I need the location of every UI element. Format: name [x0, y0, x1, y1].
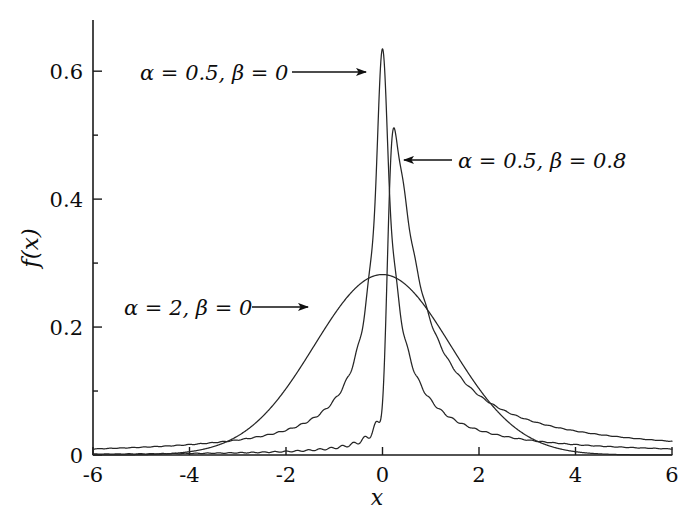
- annotation-2: α = 0.5, β = 0.8: [404, 149, 626, 173]
- x-tick-label: -2: [276, 463, 296, 487]
- x-tick-label: 6: [665, 463, 678, 487]
- y-tick-label: 0.2: [50, 316, 83, 340]
- x-tick-label: -6: [83, 463, 103, 487]
- y-axis-tick-labels: 00.20.40.6: [50, 60, 83, 468]
- y-axis-title: f(x): [17, 228, 43, 269]
- annotation-1: α = 0.5, β = 0: [140, 61, 366, 85]
- x-tick-label: 0: [376, 463, 389, 487]
- stable-density-figure: -6-4-20246 00.20.40.6 x f(x) α = 0.5, β …: [0, 0, 690, 526]
- data-curves: [93, 49, 672, 455]
- y-tick-label: 0.6: [50, 60, 83, 84]
- x-tick-label: -4: [179, 463, 199, 487]
- axes-group: [93, 20, 672, 455]
- x-axis-title: x: [371, 485, 384, 510]
- annotation-3: α = 2, β = 0: [124, 296, 308, 320]
- x-tick-label: 2: [472, 463, 485, 487]
- annotation-label: α = 0.5, β = 0.8: [458, 149, 626, 173]
- y-tick-label: 0: [70, 444, 83, 468]
- x-tick-label: 4: [569, 463, 582, 487]
- y-axis-ticks: [93, 71, 102, 455]
- x-axis-tick-labels: -6-4-20246: [83, 463, 679, 487]
- annotation-label: α = 0.5, β = 0: [140, 61, 288, 85]
- curve-1: [93, 49, 672, 449]
- annotation-label: α = 2, β = 0: [124, 296, 252, 320]
- y-axis-title-group: f(x): [17, 228, 43, 269]
- curve-2: [93, 128, 672, 454]
- y-tick-label: 0.4: [50, 188, 83, 212]
- plot-canvas: -6-4-20246 00.20.40.6 x f(x) α = 0.5, β …: [0, 0, 690, 526]
